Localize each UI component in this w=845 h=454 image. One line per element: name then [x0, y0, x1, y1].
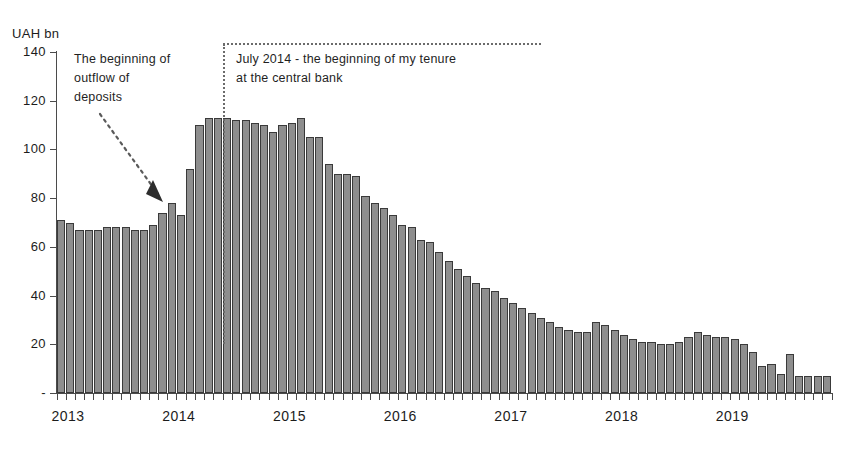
bar: [186, 169, 194, 393]
x-tick-mark: [435, 394, 436, 400]
y-tick-label-wrap: 100: [0, 149, 46, 150]
y-tick-mark: [50, 296, 56, 297]
x-tick-mark: [398, 394, 399, 400]
x-tick-mark: [407, 394, 408, 400]
x-tick-mark: [564, 394, 565, 400]
x-tick-mark: [306, 394, 307, 400]
bar: [361, 196, 369, 393]
x-tick-mark: [739, 394, 740, 400]
chart-page: UAH bn 14012010080604020- 20132014201520…: [0, 0, 845, 454]
bar: [546, 322, 554, 393]
x-tick-mark: [813, 394, 814, 400]
y-tick-label: 120: [6, 93, 46, 108]
bar: [703, 335, 711, 393]
bar: [472, 283, 480, 393]
tenure-annotation-top-rule: [223, 43, 541, 45]
bar: [583, 332, 591, 393]
bar: [509, 303, 517, 393]
bar: [675, 342, 683, 393]
x-tick-mark: [592, 394, 593, 400]
x-tick-mark: [333, 394, 334, 400]
bar: [528, 313, 536, 393]
x-tick-mark: [250, 394, 251, 400]
bar: [454, 269, 462, 393]
x-tick-mark: [555, 394, 556, 400]
x-tick-mark: [693, 394, 694, 400]
bar: [767, 364, 775, 393]
bar: [306, 137, 314, 393]
bar: [398, 225, 406, 393]
bar: [112, 227, 120, 393]
bar: [638, 342, 646, 393]
bar: [131, 230, 139, 393]
x-tick-mark: [518, 394, 519, 400]
x-tick-mark: [121, 394, 122, 400]
x-tick-mark: [352, 394, 353, 400]
x-tick-mark: [767, 394, 768, 400]
annotation-tenure-text: July 2014 - the beginning of my tenure a…: [236, 50, 566, 88]
x-tick-mark: [93, 394, 94, 400]
bar: [647, 342, 655, 393]
bar: [94, 230, 102, 393]
x-tick-mark: [416, 394, 417, 400]
x-tick-mark: [776, 394, 777, 400]
y-tick-label: 140: [6, 44, 46, 59]
bar: [232, 120, 240, 393]
bar: [721, 337, 729, 393]
x-tick-mark: [140, 394, 141, 400]
x-tick-mark: [324, 394, 325, 400]
x-tick-mark: [389, 394, 390, 400]
x-tick-mark: [665, 394, 666, 400]
x-tick-mark: [158, 394, 159, 400]
bar: [103, 227, 111, 393]
x-tick-label: 2018: [605, 408, 638, 424]
y-tick-mark: [50, 393, 56, 394]
bar: [122, 227, 130, 393]
bar: [758, 366, 766, 393]
bar: [205, 118, 213, 393]
y-tick-mark: [50, 101, 56, 102]
bar: [684, 337, 692, 393]
x-tick-mark: [573, 394, 574, 400]
y-tick-label: 80: [6, 190, 46, 205]
x-tick-mark: [176, 394, 177, 400]
x-tick-mark: [315, 394, 316, 400]
bar: [795, 376, 803, 393]
bar: [611, 330, 619, 393]
x-tick-mark: [296, 394, 297, 400]
bar: [804, 376, 812, 393]
x-tick-mark: [748, 394, 749, 400]
x-tick-mark: [656, 394, 657, 400]
bar: [445, 261, 453, 393]
bar: [158, 213, 166, 393]
x-tick-mark: [601, 394, 602, 400]
y-tick-label-wrap: 60: [0, 247, 46, 248]
x-tick-label: 2013: [51, 408, 84, 424]
y-tick-mark: [50, 247, 56, 248]
bar: [426, 242, 434, 393]
bar: [620, 335, 628, 393]
x-tick-label: 2015: [273, 408, 306, 424]
bar: [417, 240, 425, 393]
bar: [518, 308, 526, 393]
x-tick-mark: [343, 394, 344, 400]
y-tick-label-wrap: 40: [0, 296, 46, 297]
bar: [592, 322, 600, 393]
y-tick-label: -: [6, 385, 46, 400]
y-tick-label: 40: [6, 288, 46, 303]
y-tick-label-wrap: -: [0, 393, 46, 394]
x-tick-mark: [647, 394, 648, 400]
x-tick-label: 2019: [716, 408, 749, 424]
bar: [380, 208, 388, 393]
x-tick-mark: [582, 394, 583, 400]
x-tick-mark: [481, 394, 482, 400]
x-tick-mark: [675, 394, 676, 400]
x-tick-mark: [730, 394, 731, 400]
x-tick-mark: [167, 394, 168, 400]
bar: [288, 123, 296, 393]
annotation-outflow-text: The beginning of outflow of deposits: [74, 50, 209, 107]
x-tick-mark: [241, 394, 242, 400]
x-tick-mark: [130, 394, 131, 400]
bar: [315, 137, 323, 393]
bar: [195, 125, 203, 393]
